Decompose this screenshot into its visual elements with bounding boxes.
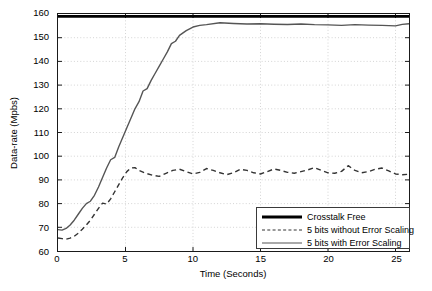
y-tick-label-120: 120 [33,104,49,114]
y-tick-label-130: 130 [33,80,49,90]
legend-box: Crosstalk Free 5 bits without Error Scal… [256,207,410,249]
x-axis-title: Time (Seconds) [200,268,267,279]
x-tick-label-20: 20 [323,254,334,264]
y-tick-label-70: 70 [38,223,49,233]
legend-line-swatch-dashed [262,224,302,236]
y-tick-label-110: 110 [34,128,49,138]
x-tick-label-10: 10 [187,254,198,264]
legend-line-swatch-solid-thin [262,237,302,249]
legend-item-crosstalk-free: Crosstalk Free [257,211,409,223]
legend-label: Crosstalk Free [307,213,366,222]
y-tick-label-80: 80 [38,199,49,209]
legend-item-5-bits-without-error-scaling: 5 bits without Error Scaling [257,224,409,236]
x-tick-label-25: 25 [391,254,402,264]
legend-label: 5 bits with Error Scaling [307,239,402,248]
figure-canvas: 60708090100110120130140150160 Data-rate … [0,0,432,291]
y-tick-label-140: 140 [33,56,49,66]
y-tick-label-100: 100 [33,152,49,162]
y-tick-label-160: 160 [33,8,49,18]
x-tick-label-5: 5 [122,254,127,264]
legend-item-5-bits-with-error-scaling: 5 bits with Error Scaling [257,237,409,249]
legend-label: 5 bits without Error Scaling [307,226,414,235]
legend-line-swatch-solid-thick [262,211,302,223]
y-tick-label-150: 150 [33,32,49,42]
x-tick-label-15: 15 [255,254,266,264]
y-tick-label-60: 60 [38,247,49,257]
y-tick-label-90: 90 [38,176,49,186]
y-axis-title: Data-rate (Mpbs) [8,97,19,169]
x-tick-label-0: 0 [54,254,59,264]
